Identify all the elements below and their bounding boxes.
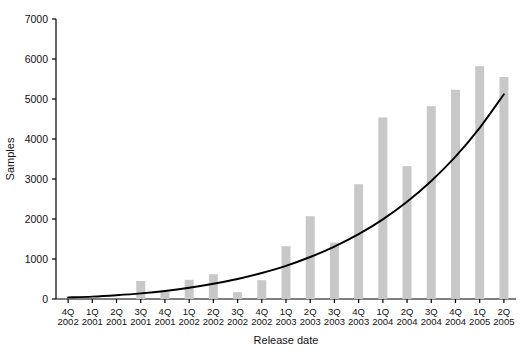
x-tick-label-year-13: 2004 xyxy=(372,316,393,327)
y-tick-label-3000: 3000 xyxy=(25,173,49,185)
bar-chart-svg: 010002000300040005000600070004Q20021Q200… xyxy=(0,0,532,355)
x-tick-label-year-18: 2005 xyxy=(493,316,514,327)
y-tick-label-7000: 7000 xyxy=(25,13,49,25)
bar-3Q-2001 xyxy=(136,281,145,299)
bar-2Q-2005 xyxy=(499,77,508,299)
x-tick-label-year-16: 2004 xyxy=(445,316,466,327)
x-tick-label-year-1: 2001 xyxy=(82,316,103,327)
chart-figure: 010002000300040005000600070004Q20021Q200… xyxy=(0,0,532,355)
bar-3Q-2002 xyxy=(233,292,242,299)
x-tick-label-year-9: 2003 xyxy=(275,316,296,327)
x-tick-label-year-6: 2002 xyxy=(203,316,224,327)
x-tick-label-year-12: 2003 xyxy=(348,316,369,327)
y-tick-label-2000: 2000 xyxy=(25,213,49,225)
bar-4Q-2004 xyxy=(451,90,460,299)
x-tick-label-year-7: 2002 xyxy=(227,316,248,327)
bar-1Q-2004 xyxy=(378,117,387,299)
x-tick-label-year-2: 2001 xyxy=(106,316,127,327)
bar-4Q-2001 xyxy=(160,291,169,299)
x-tick-label-year-11: 2003 xyxy=(324,316,345,327)
x-tick-label-year-3: 2001 xyxy=(130,316,151,327)
y-tick-label-4000: 4000 xyxy=(25,133,49,145)
x-tick-label-year-17: 2005 xyxy=(469,316,490,327)
x-tick-label-year-0: 2002 xyxy=(58,316,79,327)
y-tick-label-5000: 5000 xyxy=(25,93,49,105)
bar-1Q-2002 xyxy=(185,280,194,299)
x-tick-label-year-10: 2003 xyxy=(300,316,321,327)
bar-1Q-2003 xyxy=(282,246,291,299)
bar-4Q-2003 xyxy=(354,184,363,299)
x-tick-label-year-4: 2001 xyxy=(154,316,175,327)
y-tick-label-1000: 1000 xyxy=(25,253,49,265)
bar-1Q-2005 xyxy=(475,66,484,299)
x-tick-label-year-5: 2002 xyxy=(179,316,200,327)
bar-3Q-2004 xyxy=(427,106,436,299)
bar-3Q-2003 xyxy=(330,243,339,299)
y-tick-label-6000: 6000 xyxy=(25,53,49,65)
y-axis-title: Samples xyxy=(4,137,16,180)
y-tick-label-0: 0 xyxy=(42,293,48,305)
x-tick-label-year-8: 2002 xyxy=(251,316,272,327)
x-axis-title: Release date xyxy=(254,334,319,346)
x-tick-label-year-14: 2004 xyxy=(396,316,417,327)
bar-2Q-2004 xyxy=(403,166,412,299)
bar-2Q-2002 xyxy=(209,274,218,299)
bar-4Q-2002 xyxy=(257,280,266,299)
x-tick-label-year-15: 2004 xyxy=(421,316,442,327)
